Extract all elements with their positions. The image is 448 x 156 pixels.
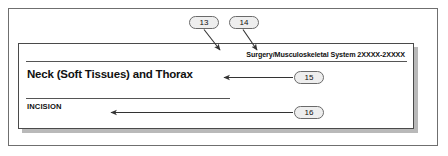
callout-bubble-13[interactable]: 13 [189, 16, 219, 29]
running-header-rule [26, 61, 407, 62]
document-card: Surgery/Musculoskeletal System 2XXXX-2XX… [18, 43, 414, 129]
subheading-incision: INCISION [27, 102, 62, 111]
figure-root: Surgery/Musculoskeletal System 2XXXX-2XX… [0, 0, 448, 156]
running-header-text: Surgery/Musculoskeletal System 2XXXX-2XX… [246, 50, 405, 59]
subheading-rule [26, 98, 230, 99]
callout-bubble-14[interactable]: 14 [229, 16, 259, 29]
chapter-title: Neck (Soft Tissues) and Thorax [27, 68, 193, 80]
callout-bubble-16[interactable]: 16 [294, 106, 324, 119]
callout-bubble-15[interactable]: 15 [294, 71, 324, 84]
